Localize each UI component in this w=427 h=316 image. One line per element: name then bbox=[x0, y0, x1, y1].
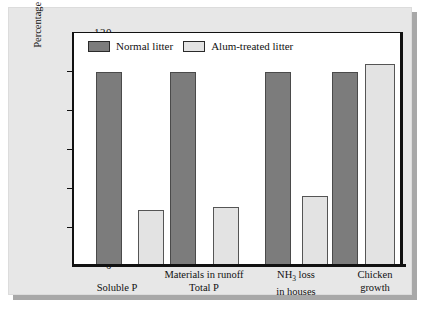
bar-normal-litter-nh3-loss bbox=[265, 72, 291, 265]
legend-swatch-normal-litter bbox=[88, 41, 110, 52]
legend-item-alum-treated-litter: Alum-treated litter bbox=[183, 40, 293, 52]
figure-panel: Percentage of control (normal litter) 12… bbox=[8, 7, 412, 295]
bar-alum-chicken-growth bbox=[365, 64, 395, 265]
figure-page: Percentage of control (normal litter) 12… bbox=[0, 0, 427, 316]
legend-item-normal-litter: Normal litter bbox=[88, 40, 173, 52]
x-label-nh3-loss-in-houses: NH3 loss in houses bbox=[248, 268, 344, 298]
legend-label-normal-litter: Normal litter bbox=[116, 40, 173, 52]
x-label-materials-in-runoff: Materials in runoff Total P bbox=[144, 268, 264, 294]
x-axis-labels: Soluble P Materials in runoff Total P NH… bbox=[72, 267, 406, 303]
legend: Normal litter Alum-treated litter bbox=[88, 40, 293, 52]
legend-label-alum-treated-litter: Alum-treated litter bbox=[211, 40, 293, 52]
bar-normal-litter-total-p bbox=[170, 72, 196, 265]
legend-swatch-alum-treated-litter bbox=[183, 41, 205, 52]
bar-alum-soluble-p bbox=[138, 210, 164, 265]
plot-area: Normal litter Alum-treated litter bbox=[72, 32, 403, 266]
bar-alum-nh3-loss bbox=[302, 196, 328, 265]
x-label-nh3-loss-line: NH3 loss bbox=[248, 268, 344, 285]
bar-normal-litter-chicken-growth bbox=[332, 72, 358, 265]
x-label-chicken-growth: Chicken growth bbox=[334, 268, 416, 294]
plot-inner: Normal litter Alum-treated litter bbox=[74, 33, 400, 265]
bar-normal-litter-soluble-p bbox=[96, 72, 122, 265]
bar-alum-total-p bbox=[213, 207, 239, 265]
y-axis-title-container: Percentage of control (normal litter) bbox=[39, 32, 53, 266]
y-axis-title: Percentage of control (normal litter) bbox=[32, 0, 43, 72]
